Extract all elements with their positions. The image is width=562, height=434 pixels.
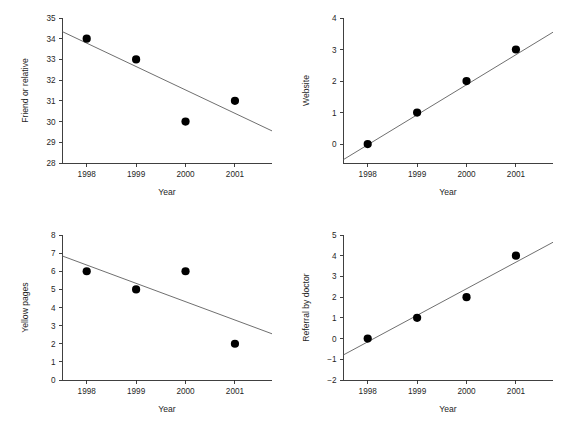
x-tick-label: 2000 (457, 387, 476, 396)
x-tick-label: 1999 (408, 387, 427, 396)
y-tick-label: 0 (51, 376, 56, 385)
y-tick-label: 31 (46, 97, 56, 106)
y-tick-label: −1 (327, 355, 337, 364)
plot-friend-or-relative: 28293031323334351998199920002001YearFrie… (0, 0, 281, 217)
x-tick-label: 2000 (176, 170, 195, 179)
x-tick-label: 2001 (507, 387, 526, 396)
y-tick-label: 2 (332, 77, 337, 86)
y-tick-label: 33 (46, 55, 56, 64)
y-tick-label: 34 (46, 35, 56, 44)
y-tick-label: 29 (46, 138, 56, 147)
data-point (462, 77, 470, 85)
x-axis-title: Year (439, 404, 457, 414)
data-point (364, 140, 372, 148)
y-tick-label: −2 (327, 376, 337, 385)
data-point (231, 340, 239, 348)
data-point (132, 55, 140, 63)
data-point (364, 334, 372, 342)
panel-yellow-pages: 0123456781998199920002001YearYellow page… (0, 217, 281, 434)
data-point (132, 285, 140, 293)
y-tick-label: 0 (332, 335, 337, 344)
y-tick-label: 5 (332, 231, 337, 240)
x-tick-label: 1999 (127, 170, 146, 179)
y-tick-label: 4 (332, 14, 337, 23)
x-tick-label: 2000 (176, 387, 195, 396)
data-point (181, 267, 189, 275)
plot-website: 012341998199920002001YearWebsite (281, 0, 562, 217)
data-point (413, 108, 421, 116)
x-tick-label: 1998 (359, 170, 378, 179)
y-tick-label: 35 (46, 14, 56, 23)
regression-line (62, 31, 272, 130)
regression-line (343, 32, 553, 160)
regression-line (62, 256, 272, 334)
x-axis-title: Year (158, 187, 176, 197)
y-tick-label: 1 (332, 109, 337, 118)
x-tick-label: 1998 (78, 387, 97, 396)
y-tick-label: 3 (51, 322, 56, 331)
data-point (512, 252, 520, 260)
y-tick-label: 4 (51, 304, 56, 313)
data-point (83, 267, 91, 275)
x-axis-title: Year (439, 187, 457, 197)
y-tick-label: 3 (332, 272, 337, 281)
panel-website: 012341998199920002001YearWebsite (281, 0, 562, 217)
y-tick-label: 1 (332, 314, 337, 323)
x-tick-label: 2001 (226, 170, 245, 179)
y-axis-title: Yellow pages (20, 282, 30, 332)
x-tick-label: 1998 (359, 387, 378, 396)
data-point (413, 314, 421, 322)
plot-referral-by-doctor: −2−10123451998199920002001YearReferral b… (281, 217, 562, 434)
y-tick-label: 28 (46, 159, 56, 168)
data-point (231, 97, 239, 105)
data-point (462, 293, 470, 301)
y-axis-title: Friend or relative (20, 58, 30, 123)
x-tick-label: 2001 (226, 387, 245, 396)
y-tick-label: 7 (51, 249, 56, 258)
y-tick-label: 2 (51, 340, 56, 349)
y-tick-label: 4 (332, 252, 337, 261)
panel-friend-or-relative: 28293031323334351998199920002001YearFrie… (0, 0, 281, 217)
x-tick-label: 2001 (507, 170, 526, 179)
data-point (181, 117, 189, 125)
y-tick-label: 1 (51, 358, 56, 367)
panel-referral-by-doctor: −2−10123451998199920002001YearReferral b… (281, 217, 562, 434)
data-point (512, 45, 520, 53)
x-tick-label: 1998 (78, 170, 97, 179)
y-tick-label: 30 (46, 118, 56, 127)
y-axis-title: Referral by doctor (301, 273, 311, 341)
figure-panel-grid: 28293031323334351998199920002001YearFrie… (0, 0, 562, 434)
x-tick-label: 1999 (127, 387, 146, 396)
y-tick-label: 6 (51, 267, 56, 276)
y-tick-label: 5 (51, 285, 56, 294)
y-tick-label: 8 (51, 231, 56, 240)
x-tick-label: 1999 (408, 170, 427, 179)
x-tick-label: 2000 (457, 170, 476, 179)
plot-yellow-pages: 0123456781998199920002001YearYellow page… (0, 217, 281, 434)
y-tick-label: 2 (332, 293, 337, 302)
y-tick-label: 0 (332, 140, 337, 149)
y-tick-label: 32 (46, 76, 56, 85)
regression-line (343, 242, 553, 355)
y-axis-title: Website (301, 75, 311, 106)
data-point (83, 35, 91, 43)
x-axis-title: Year (158, 404, 176, 414)
y-tick-label: 3 (332, 46, 337, 55)
